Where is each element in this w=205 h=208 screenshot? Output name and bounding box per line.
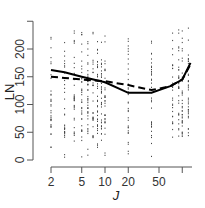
x-tick-label: 50 — [152, 175, 166, 189]
x-axis-title: J — [112, 188, 120, 203]
chart: 050100150200 25102050 LN J — [0, 0, 205, 208]
y-tick-label: 200 — [13, 39, 27, 59]
x-axis: 25102050 — [48, 167, 192, 189]
x-tick-label: 20 — [122, 175, 136, 189]
y-tick-label: 0 — [13, 156, 27, 163]
fit-lines — [51, 63, 191, 93]
x-tick-label: 5 — [78, 175, 85, 189]
x-tick-label: 2 — [48, 175, 55, 189]
x-tick-label: 10 — [98, 175, 112, 189]
y-tick-label: 50 — [13, 125, 27, 139]
scatter-points — [51, 28, 189, 158]
y-axis-title: LN — [2, 84, 17, 101]
solid-fit-line — [51, 63, 191, 93]
